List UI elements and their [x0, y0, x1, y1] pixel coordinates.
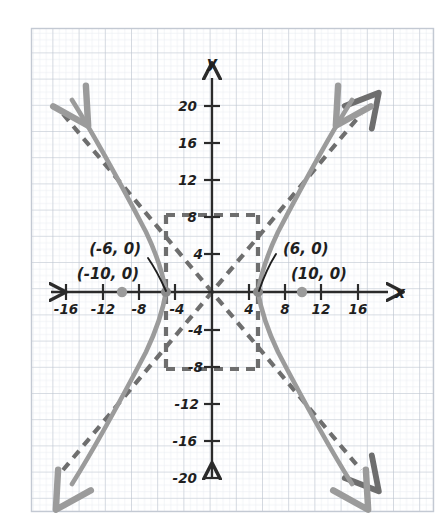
annotation-vertex-left: (-6, 0) — [89, 240, 141, 258]
annotation-focus-right: (10, 0) — [291, 265, 347, 283]
y-label-12: 12 — [178, 172, 197, 188]
x-label--4: -4 — [170, 301, 185, 317]
y-label-4: 4 — [193, 246, 203, 262]
x-label-16: 16 — [349, 301, 368, 317]
y-label--8: -8 — [188, 359, 203, 375]
graph-canvas: -16 -12 -8 -4 4 8 12 16 20 16 12 8 4 -4 … — [0, 0, 447, 527]
y-label--12: -12 — [175, 396, 199, 412]
x-label--12: -12 — [91, 301, 115, 317]
y-label-20: 20 — [178, 98, 197, 114]
hyperbola-figure: -16 -12 -8 -4 4 8 12 16 20 16 12 8 4 -4 … — [0, 0, 447, 527]
y-label-16: 16 — [178, 135, 197, 151]
focus-point-left — [117, 287, 127, 297]
y-axis-title: y — [207, 53, 218, 72]
y-label--16: -16 — [173, 433, 197, 449]
x-label-4: 4 — [243, 301, 253, 317]
annotation-vertex-right: (6, 0) — [283, 240, 329, 258]
y-label-8: 8 — [188, 209, 197, 225]
x-label--16: -16 — [54, 301, 78, 317]
x-label--8: -8 — [132, 301, 147, 317]
vertex-point-left — [161, 287, 171, 297]
x-label-12: 12 — [312, 301, 331, 317]
y-label--20: -20 — [173, 470, 197, 486]
annotation-focus-left: (-10, 0) — [77, 265, 139, 283]
focus-point-right — [297, 287, 307, 297]
x-label-8: 8 — [280, 301, 289, 317]
x-axis-title: x — [394, 283, 406, 302]
vertex-point-right — [253, 287, 263, 297]
y-label--4: -4 — [188, 322, 203, 338]
